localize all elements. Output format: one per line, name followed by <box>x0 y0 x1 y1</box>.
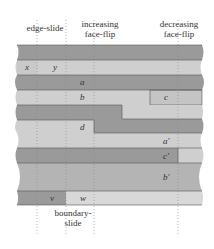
label-edge-slide: edge-slide <box>22 23 68 33</box>
label-boundary-line2: slide <box>65 218 82 228</box>
label-boundary-line1: boundary- <box>55 208 92 218</box>
strip-dark-top <box>17 45 204 60</box>
label-decreasing-face-flip: decreasing face-flip <box>153 19 205 39</box>
label-boundary-slide: boundary- slide <box>50 208 96 228</box>
var-y: y <box>53 62 57 72</box>
var-b: b <box>80 92 85 102</box>
var-d: d <box>80 122 85 132</box>
var-a-prime: a′ <box>163 136 169 146</box>
strip-mid-b-prime <box>17 163 202 191</box>
strip-dark-c-prime <box>16 148 179 163</box>
strip-light-w <box>66 191 203 205</box>
var-a: a <box>80 77 85 87</box>
label-increasing-face-flip: increasing face-flip <box>74 19 126 39</box>
strip-dark-v <box>17 191 66 205</box>
strip-light-c-prime-right <box>178 148 204 163</box>
label-increasing-line2: face-flip <box>85 29 115 39</box>
var-w: w <box>80 193 86 203</box>
cell-c <box>150 90 202 105</box>
var-x: x <box>25 62 29 72</box>
var-c-prime: c′ <box>163 151 169 161</box>
label-decreasing-line1: decreasing <box>160 19 198 29</box>
strip-light-a-prime <box>17 133 202 148</box>
strip-dark-a <box>15 75 204 90</box>
var-v: v <box>50 193 54 203</box>
strip-light-right <box>122 105 203 119</box>
label-increasing-line1: increasing <box>82 19 119 29</box>
var-c: c <box>164 92 168 102</box>
var-b-prime: b′ <box>163 172 169 182</box>
strip-light-xy <box>16 60 203 75</box>
label-decreasing-line2: face-flip <box>164 29 194 39</box>
